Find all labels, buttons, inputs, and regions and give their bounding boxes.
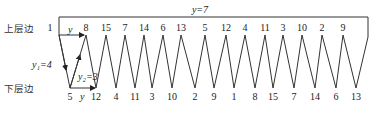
top-node-label: 9: [341, 22, 346, 33]
bottom-node-label: 3: [150, 91, 155, 102]
bottom-node-label: 14: [310, 91, 320, 102]
top-node-label: 3: [281, 22, 286, 33]
y-top-label: y: [67, 24, 73, 35]
bottom-node-label: 4: [114, 91, 119, 102]
zigzag-lines: [70, 35, 356, 88]
y1-label: y₁=4: [31, 59, 52, 70]
top-node-label: 8: [84, 22, 89, 33]
bottom-node-label: 5: [68, 91, 73, 102]
top-node-label: 13: [176, 22, 186, 33]
top-node-label: 4: [243, 22, 248, 33]
lower-edge-label: 下层边: [4, 83, 34, 94]
top-node-label: 14: [139, 22, 149, 33]
bottom-node-label: 15: [268, 91, 278, 102]
top-node-label: 12: [221, 22, 231, 33]
top-node-label: 2: [320, 22, 325, 33]
zigzag-path: [70, 35, 356, 88]
bottom-node-label: 6: [334, 91, 339, 102]
bottom-node-label: 9: [212, 91, 217, 102]
top-node-label: 15: [101, 22, 111, 33]
y2-label: y₂=3: [77, 71, 98, 82]
bottom-node-label: 12: [91, 91, 101, 102]
top-node-label: 11: [260, 22, 270, 33]
bottom-node-label: 11: [130, 91, 140, 102]
bottom-node-label: 13: [351, 91, 361, 102]
top-node-label: 1: [48, 22, 53, 33]
bottom-node-label: 1: [232, 91, 237, 102]
bottom-node-labels: 512411310291815714613: [68, 91, 362, 102]
left-diagonal-arrow: [59, 35, 66, 70]
y-bottom-label: y: [79, 91, 85, 102]
winding-diagram: 181571461351241131029 512411310291815714…: [0, 0, 385, 113]
top-node-label: 10: [297, 22, 307, 33]
top-node-label: 7: [123, 22, 128, 33]
top-node-label: 5: [203, 22, 208, 33]
top-span-label: y=7: [191, 4, 209, 15]
bottom-node-label: 10: [167, 91, 177, 102]
upper-edge-label: 上层边: [4, 23, 34, 34]
bottom-node-label: 2: [193, 91, 198, 102]
top-node-label: 6: [161, 22, 166, 33]
top-node-labels: 181571461351241131029: [48, 22, 346, 33]
bottom-node-label: 8: [253, 91, 258, 102]
bottom-node-label: 7: [292, 91, 297, 102]
